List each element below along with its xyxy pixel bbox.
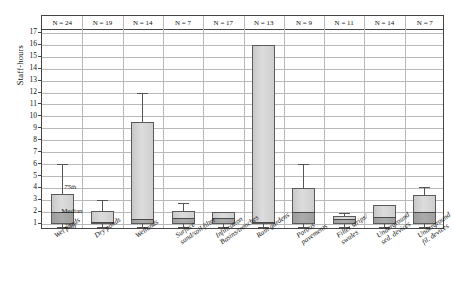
box-iqr: [252, 45, 275, 225]
upper-whisker-cap: [97, 200, 108, 201]
y-tick-label: 12: [22, 88, 37, 96]
upper-whisker-cap: [137, 93, 148, 94]
y-tick-label: 8: [22, 136, 37, 144]
median-line: [413, 212, 436, 213]
upper-whisker-cap: [298, 164, 309, 165]
upper-whisker-cap: [339, 213, 350, 214]
annotation-75th-percentile: 75th: [64, 183, 76, 191]
plot-area: N = 24N = 19N = 14N = 7N = 17N = 13N = 9…: [41, 15, 444, 229]
box-iqr: [131, 122, 154, 224]
box-plot-group: [123, 16, 163, 228]
y-tick-label: 3: [22, 195, 37, 203]
box-plot-group: [244, 16, 284, 228]
box-plot-group: [364, 16, 404, 228]
y-tick-label: 13: [22, 76, 37, 84]
box-plot-group: [324, 16, 364, 228]
upper-whisker-cap: [57, 164, 68, 165]
x-axis-labels: Wet pondsDry pondsWetlandsSurfacesand/so…: [0, 231, 450, 289]
box-plot-group: [203, 16, 243, 228]
y-tick-label: 4: [22, 183, 37, 191]
upper-whisker-cap: [419, 187, 430, 188]
y-tick-label: 2: [22, 207, 37, 215]
median-line: [172, 218, 195, 219]
box-plot-group: [82, 16, 122, 228]
y-tick-label: 14: [22, 64, 37, 72]
y-tick-label: 1: [22, 219, 37, 227]
box-plot-group: [405, 16, 445, 228]
y-tick-label: 11: [22, 100, 37, 108]
upper-whisker: [62, 164, 63, 194]
upper-whisker: [102, 200, 103, 211]
box-plot-group: [163, 16, 203, 228]
annotation-median: Median: [61, 207, 82, 215]
y-tick-label: 7: [22, 148, 37, 156]
median-line: [292, 212, 315, 213]
y-tick-label: 5: [22, 172, 37, 180]
upper-whisker-cap: [178, 203, 189, 204]
y-tick-label: 9: [22, 124, 37, 132]
box-plot-group: [284, 16, 324, 228]
y-tick-label: 16: [22, 40, 37, 48]
y-tick-label: 6: [22, 160, 37, 168]
annotation-25th-percentile: 25th: [64, 222, 76, 230]
upper-whisker: [142, 93, 143, 123]
y-tick-label: 10: [22, 112, 37, 120]
y-tick-label: 15: [22, 52, 37, 60]
upper-whisker: [303, 164, 304, 188]
upper-whisker: [424, 187, 425, 195]
upper-whisker: [183, 203, 184, 211]
median-line: [373, 217, 396, 218]
box-plot-group: [42, 16, 82, 228]
y-tick-label: 17: [22, 28, 37, 36]
